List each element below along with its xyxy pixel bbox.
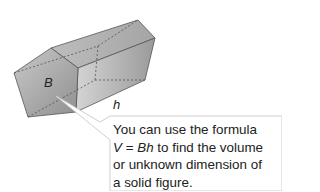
height-label: h <box>113 97 120 112</box>
formula-bh: Bh <box>137 140 153 155</box>
formula-eq: = <box>122 140 137 155</box>
base-label: B <box>44 75 53 90</box>
callout-line-3: or unknown dimension of <box>113 156 282 174</box>
formula-v: V <box>113 140 122 155</box>
callout-line-1: You can use the formula <box>113 121 282 139</box>
callout-line-2: V = Bh to find the volume <box>113 139 282 157</box>
callout-line-4: a solid figure. <box>113 174 282 192</box>
formula-rest: to find the volume <box>154 140 263 155</box>
callout-text: You can use the formula V = Bh to find t… <box>113 121 282 191</box>
